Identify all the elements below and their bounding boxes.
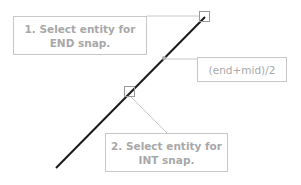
callout-mid-text: (end+mid)/2 (209, 63, 276, 77)
callout-int-line2: INT snap. (139, 153, 195, 167)
callout-end-line2: END snap. (50, 36, 111, 50)
callout-int-line1: 2. Select entity for (111, 139, 222, 153)
midpoint-marker (162, 56, 166, 60)
leader-int (131, 97, 167, 133)
callout-end-snap: 1. Select entity for END snap. (13, 16, 147, 55)
int-snap-marker (125, 87, 135, 97)
callout-end-line1: 1. Select entity for (25, 22, 136, 36)
callout-mid-formula: (end+mid)/2 (197, 57, 287, 82)
callout-int-snap: 2. Select entity for INT snap. (105, 133, 228, 172)
